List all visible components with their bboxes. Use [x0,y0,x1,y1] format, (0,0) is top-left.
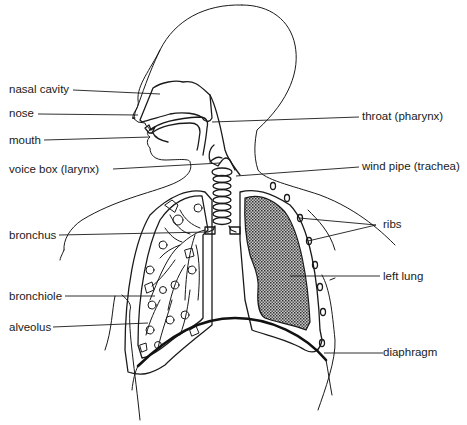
label-throat: throat (pharynx) [362,110,443,123]
head-outline [132,5,242,119]
label-bronchiole: bronchiole [9,290,62,303]
label-mouth: mouth [9,134,41,147]
label-left-lung: left lung [383,270,423,283]
torso-outline [60,250,64,260]
label-nasal-cavity: nasal cavity [9,83,69,96]
label-bronchus: bronchus [9,229,56,242]
label-ribs: ribs [383,218,402,231]
label-wind-pipe: wind pipe (trachea) [362,160,460,173]
label-voice-box: voice box (larynx) [9,163,99,176]
anatomy-drawing [0,0,467,425]
nasal-cavity-shape [140,81,212,122]
leader-lines [38,90,383,353]
trachea [205,168,240,234]
left-lung [245,197,310,330]
label-nose: nose [9,107,34,120]
bronchiole-tree [140,200,205,352]
label-alveolus: alveolus [9,321,51,334]
face-profile [64,50,191,250]
label-diaphragm: diaphragm [383,346,437,359]
respiratory-system-diagram: nasal cavity nose mouth voice box (laryn… [0,0,467,425]
